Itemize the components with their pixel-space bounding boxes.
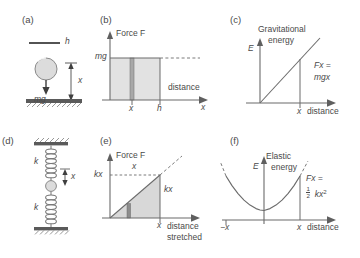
displacement-arrow-down bbox=[62, 180, 67, 186]
panel-a-drawing bbox=[0, 0, 100, 128]
panel-e: (e) Force F kx x kx x distance stretched bbox=[96, 128, 228, 258]
bottom-support-hatching bbox=[35, 230, 69, 234]
panel-a: (a) h mg x bbox=[0, 0, 100, 128]
panel-b-ytick-mg: mg bbox=[95, 52, 107, 62]
panel-c-title: Gravitational bbox=[258, 25, 306, 35]
panel-a-weight-label: mg bbox=[34, 95, 46, 105]
energy-line bbox=[260, 38, 320, 103]
panel-f-y-axis-label: E bbox=[253, 162, 259, 172]
panel-c-y-axis-label: E bbox=[248, 44, 254, 54]
panel-a-displacement-label: x bbox=[78, 76, 82, 86]
panel-f-title-line1: Elastic bbox=[266, 152, 291, 162]
panel-f-equation-body: 1 2 kx2 bbox=[306, 186, 327, 200]
panel-e-x-axis-label-line2: stretched bbox=[167, 233, 202, 243]
panel-c-x-axis-label: distance bbox=[307, 107, 339, 117]
panel-f-equation-prefix: Fx = bbox=[306, 174, 323, 184]
panel-d-displacement-label: x bbox=[71, 172, 75, 182]
panel-c-title-line2: energy bbox=[268, 35, 294, 45]
work-strip bbox=[127, 204, 131, 219]
panel-e-chart bbox=[96, 128, 228, 258]
panel-b-chart bbox=[96, 0, 228, 128]
panel-b-y-axis-label: Force F bbox=[116, 29, 145, 39]
panel-b-x-axis-label: distance bbox=[168, 83, 200, 93]
force-line-extension bbox=[160, 156, 182, 175]
panel-e-y-axis-label: Force F bbox=[116, 151, 145, 161]
top-support-bar bbox=[34, 142, 68, 145]
panel-f-fraction: 1 2 bbox=[306, 186, 310, 200]
panel-a-height-label: h bbox=[65, 37, 70, 47]
panel-d-spring-bottom-label: k bbox=[34, 203, 38, 213]
displacement-arrow-up bbox=[68, 63, 73, 70]
panel-f-xtick-positive: x bbox=[297, 223, 301, 233]
panel-b-xtick-x: x bbox=[129, 104, 133, 114]
y-axis-arrowhead bbox=[107, 153, 113, 161]
panel-e-y-axis-text: Force F bbox=[116, 150, 145, 160]
panel-c-xtick-x: x bbox=[297, 107, 301, 117]
panel-c-equation-line2: mgx bbox=[314, 73, 330, 83]
spring-top bbox=[46, 145, 57, 181]
panel-f-x-axis-label: distance bbox=[307, 223, 339, 233]
panel-e-x-axis-label-line1: distance bbox=[167, 222, 199, 232]
panel-e-slope-label: kx bbox=[164, 185, 173, 195]
y-axis-arrowhead bbox=[257, 38, 263, 46]
panel-f-chart bbox=[228, 128, 360, 258]
unused bbox=[228, 166, 252, 185]
panel-f-equation-exponent: 2 bbox=[323, 188, 326, 195]
panel-d-drawing bbox=[0, 128, 100, 258]
bottom-support-bar bbox=[34, 227, 68, 230]
panel-b-y-axis-text: Force F bbox=[116, 28, 145, 38]
displacement-arrow-up bbox=[62, 169, 67, 175]
spring-mass-ball bbox=[46, 181, 57, 192]
panel-c-chart bbox=[228, 0, 360, 128]
panel-b-x-axis-symbol: x bbox=[201, 103, 205, 113]
top-support-hatching bbox=[35, 138, 69, 142]
panel-c-title-line1: Gravitational bbox=[258, 24, 306, 34]
elastic-energy-curve bbox=[226, 176, 300, 211]
panel-e-inner-x-label: x bbox=[132, 162, 136, 172]
panel-f-title-line2: energy bbox=[271, 163, 297, 173]
panel-e-xtick-x: x bbox=[157, 221, 161, 231]
panel-d: (d) bbox=[0, 128, 100, 258]
panel-c: (c) Gravitational energy E x distance Fx… bbox=[228, 0, 360, 128]
y-axis-arrowhead bbox=[107, 31, 113, 39]
panel-e-ytick-kx: kx bbox=[94, 170, 103, 180]
panel-c-equation-line1: Fx = bbox=[314, 61, 331, 71]
panel-b-xtick-h: h bbox=[157, 104, 162, 114]
panel-f-fraction-denominator: 2 bbox=[306, 193, 310, 199]
panel-c-title-line2-wrap: energy bbox=[268, 36, 294, 46]
panel-b: (b) Force F mg x h distance x bbox=[96, 0, 228, 128]
panel-d-spring-top-label: k bbox=[34, 157, 38, 167]
work-strip bbox=[130, 58, 134, 100]
spring-bottom bbox=[46, 191, 57, 227]
work-area-shaded bbox=[110, 58, 160, 100]
panel-f: (f) Elastic energy E −x x distance Fx = … bbox=[228, 128, 360, 258]
panel-f-xtick-negative: −x bbox=[220, 223, 229, 233]
